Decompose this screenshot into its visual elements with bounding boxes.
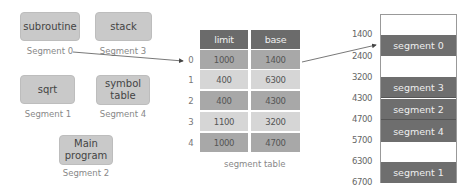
arrow-segment0-to-table [73, 52, 183, 61]
mapping-arrows [0, 0, 476, 193]
arrow-table-to-memory [302, 45, 376, 62]
